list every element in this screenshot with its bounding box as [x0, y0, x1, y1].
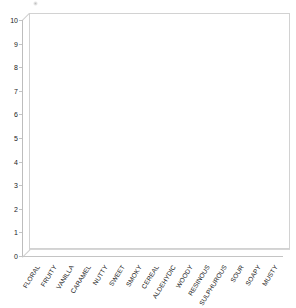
- x-axis-category-labels: FLORALFRUITYVANILLACARAMELNUTTYSWEETSMOK…: [0, 0, 296, 308]
- bar-chart: 109876543210 FLORALFRUITYVANILLACARAMELN…: [0, 0, 296, 308]
